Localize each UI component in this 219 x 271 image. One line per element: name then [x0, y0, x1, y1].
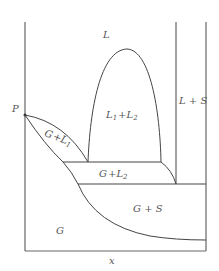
g-l2-left-curve — [63, 162, 78, 184]
region-label-g: G — [56, 225, 64, 236]
x-axis-label: x — [109, 255, 115, 266]
phase-diagram: P L L1+L2 L + S G+L1 G+L2 G + S G x — [0, 0, 219, 271]
l1-l2-dome — [88, 49, 161, 162]
g-l2-right-curve — [161, 162, 176, 184]
region-label-l: L — [102, 29, 110, 40]
region-label-g-l1: G+L1 — [42, 127, 73, 149]
region-label-g-s: G + S — [133, 203, 163, 214]
region-label-g-l2: G+L2 — [99, 168, 128, 181]
label-p: P — [11, 103, 19, 114]
region-label-l-s: L + S — [178, 95, 207, 106]
region-label-l1-l2: L1+L2 — [105, 109, 138, 122]
